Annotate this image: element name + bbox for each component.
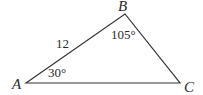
vertex-label-c: C — [184, 79, 195, 95]
side-label-ab: 12 — [56, 36, 69, 51]
vertex-label-b: B — [118, 0, 127, 14]
triangle-diagram: A B C 12 30° 105° — [0, 0, 203, 95]
angle-label-a: 30° — [48, 65, 66, 80]
angle-label-b: 105° — [111, 27, 136, 42]
vertex-label-a: A — [11, 76, 22, 92]
